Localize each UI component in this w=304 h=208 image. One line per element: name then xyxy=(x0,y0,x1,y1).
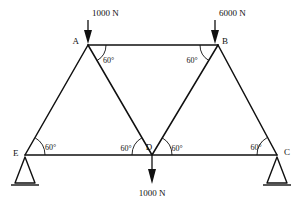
angle-label-at-C: 60° xyxy=(250,143,261,152)
load-label-at-D: 1000 N xyxy=(139,188,166,198)
load-arrow-head-D xyxy=(148,169,156,184)
angle-arc-at-D-left xyxy=(132,138,142,155)
node-label-A: A xyxy=(73,36,80,46)
node-labels-group: A B C D E xyxy=(13,36,290,158)
member-B-C xyxy=(218,45,277,155)
member-D-B xyxy=(152,45,218,155)
load-arrow-head-B xyxy=(211,30,219,44)
angle-label-at-E: 60° xyxy=(45,143,56,152)
support-triangle-C xyxy=(267,157,287,183)
angle-label-at-D-right: 60° xyxy=(171,144,182,153)
support-at-E xyxy=(11,157,39,185)
angle-arc-at-B xyxy=(200,45,209,61)
truss-diagram-figure: A B C D E 60° 60° 60° 60° 60° 60° 1000 N… xyxy=(0,0,304,208)
angle-label-at-A: 60° xyxy=(103,56,114,65)
angle-label-at-D-left: 60° xyxy=(120,144,131,153)
support-at-C xyxy=(263,157,291,185)
load-label-at-A: 1000 N xyxy=(92,8,119,18)
angle-labels-group: 60° 60° 60° 60° 60° 60° xyxy=(45,56,262,153)
node-label-C: C xyxy=(284,147,290,157)
support-triangle-E xyxy=(15,157,35,183)
member-A-D xyxy=(88,45,152,155)
load-arrow-at-D xyxy=(148,156,156,184)
member-E-A xyxy=(25,45,88,155)
truss-members-group xyxy=(25,45,277,155)
load-arrow-head-A xyxy=(84,30,92,44)
node-label-E: E xyxy=(13,148,19,158)
node-label-B: B xyxy=(222,36,228,46)
load-arrow-at-A xyxy=(84,20,92,44)
angle-arcs-group xyxy=(35,45,267,155)
load-label-at-B: 6000 N xyxy=(219,8,246,18)
node-label-D: D xyxy=(146,142,153,152)
angle-arc-at-E xyxy=(35,138,45,155)
angle-label-at-B: 60° xyxy=(186,56,197,65)
load-arrow-at-B xyxy=(211,20,219,44)
truss-diagram-canvas: A B C D E 60° 60° 60° 60° 60° 60° 1000 N… xyxy=(0,0,304,208)
